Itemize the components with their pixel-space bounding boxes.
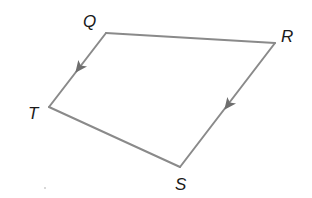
vertex-label-t: T xyxy=(28,104,40,123)
vertex-label-s: S xyxy=(175,175,187,194)
vertex-label-q: Q xyxy=(83,12,96,31)
scan-speck xyxy=(44,187,46,189)
edge-st xyxy=(49,107,180,167)
trapezium-diagram: Q R S T xyxy=(0,0,312,198)
edge-qr xyxy=(106,33,275,43)
vertex-label-r: R xyxy=(281,27,293,46)
